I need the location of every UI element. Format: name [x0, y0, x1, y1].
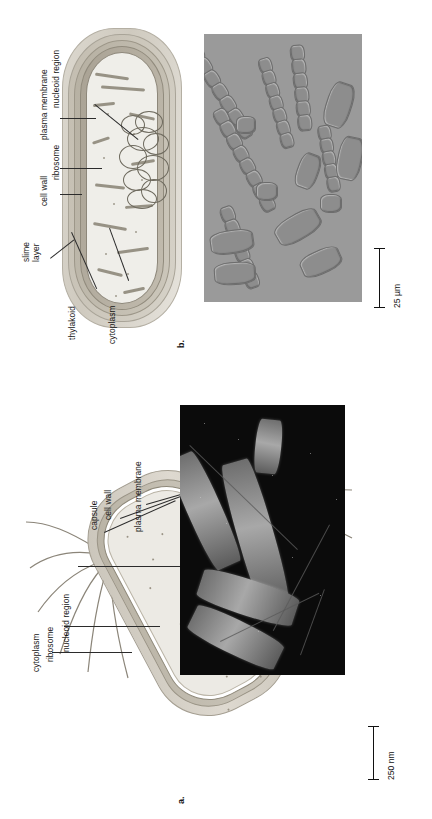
- micrograph-cell: [256, 182, 278, 201]
- micrograph-cell: [320, 79, 359, 131]
- label-cell-wall-b: cell wall: [40, 176, 50, 206]
- scale-bar-25um: [372, 248, 394, 308]
- label-cell-wall-a: cell wall: [104, 490, 114, 520]
- label-plasma-membrane-b: plasma membrane: [40, 69, 50, 140]
- nucleoid-region-shape: [117, 111, 175, 207]
- panel-a: cytoplasm ribosome nucleoid region capsu…: [0, 372, 432, 819]
- ribosome-dot: [103, 157, 105, 159]
- panel-b: nucleoid region plasma membrane ribosome…: [0, 0, 432, 372]
- label-cytoplasm-b: cytoplasm: [108, 305, 118, 344]
- label-cytoplasm-a: cytoplasm: [32, 633, 42, 672]
- ribosome-dot: [135, 231, 137, 233]
- micrograph-cell: [271, 204, 326, 251]
- label-capsule-a: capsule: [90, 500, 100, 530]
- micrograph-cell: [320, 194, 342, 213]
- label-plasma-membrane-a: plasma membrane: [134, 461, 144, 532]
- micrograph-cell: [292, 150, 325, 191]
- label-layer-b: layer: [32, 243, 42, 262]
- thylakoid-shape: [123, 287, 145, 295]
- scale-bar-250nm: [366, 726, 388, 780]
- edge-caption: [417, 691, 431, 811]
- micrograph-cell: [333, 134, 362, 182]
- leader-ribosome-b: [60, 168, 102, 169]
- micrograph-cell: [297, 242, 345, 281]
- figure-prokaryotic-cell: nucleoid region plasma membrane ribosome…: [0, 0, 432, 819]
- leader-plasma-membrane-b: [60, 118, 96, 119]
- label-nucleoid-region-b: nucleoid region: [52, 50, 62, 108]
- scale-bar-label-250nm: 250 nm: [386, 751, 396, 780]
- ribosome-dot: [113, 203, 115, 205]
- thylakoid-shape: [101, 85, 145, 91]
- label-nucleoid-region-a: nucleoid region: [62, 594, 72, 652]
- leader-ribosome-a: [64, 626, 160, 627]
- thylakoid-shape: [97, 268, 123, 277]
- thylakoid-shape: [92, 136, 110, 144]
- ribosome-dot: [105, 253, 107, 255]
- micrograph-a: [180, 405, 345, 675]
- ribosome-dot: [115, 295, 117, 297]
- label-thylakoid-b: thylakoid: [68, 306, 78, 340]
- panel-label-a: a.: [176, 796, 186, 804]
- thylakoid-shape: [117, 247, 149, 254]
- sem-rod: [252, 418, 284, 474]
- leader-cytoplasm-a: [52, 652, 132, 653]
- flagellum: [88, 572, 106, 672]
- micrograph-cell: [236, 116, 256, 134]
- label-ribosome-b: ribosome: [52, 145, 62, 180]
- thylakoid-shape: [95, 73, 129, 81]
- micrograph-b: [204, 34, 362, 302]
- leader-cell-wall-b: [60, 194, 82, 195]
- scale-bar-label-25um: 25 µm: [392, 284, 402, 308]
- panel-label-b: b.: [176, 340, 186, 348]
- leader-nucleoid-a: [78, 566, 184, 567]
- cyanobacterium-diagram: [62, 28, 182, 328]
- label-ribosome-a: ribosome: [46, 627, 56, 662]
